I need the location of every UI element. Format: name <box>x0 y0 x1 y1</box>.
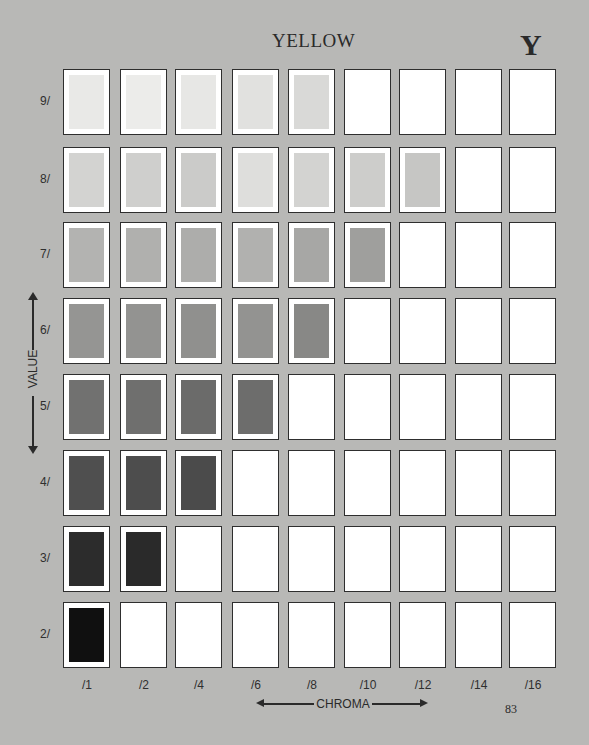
color-chip <box>232 450 279 516</box>
chip-color-fill <box>181 228 216 282</box>
hue-letter: Y <box>520 28 542 62</box>
color-chip <box>175 69 222 135</box>
color-chip <box>175 602 222 668</box>
chip-color-fill <box>69 532 104 586</box>
color-chip <box>344 602 391 668</box>
chip-color-fill <box>238 380 273 434</box>
chip-color-fill <box>69 608 104 662</box>
chip-color-fill <box>238 228 273 282</box>
color-chip <box>288 450 335 516</box>
color-chip <box>120 602 167 668</box>
chip-color-fill <box>181 456 216 510</box>
color-chip <box>288 222 335 288</box>
color-chip <box>455 222 502 288</box>
chip-color-fill <box>294 228 329 282</box>
chip-color-fill <box>294 304 329 358</box>
color-chip <box>399 374 446 440</box>
chip-color-fill <box>126 153 161 207</box>
color-chip <box>399 147 446 213</box>
chip-color-fill <box>69 380 104 434</box>
color-chip <box>344 374 391 440</box>
color-chip <box>344 298 391 364</box>
chip-color-fill <box>126 380 161 434</box>
color-chip <box>509 147 556 213</box>
color-chip <box>344 222 391 288</box>
chip-color-fill <box>126 304 161 358</box>
chip-color-fill <box>294 75 329 129</box>
color-chip <box>120 374 167 440</box>
color-chip <box>509 602 556 668</box>
chroma-axis: CHROMA <box>256 697 428 711</box>
column-label: /16 <box>509 678 557 692</box>
arrow-down-icon <box>28 446 38 454</box>
color-chip <box>288 374 335 440</box>
color-chip <box>63 602 110 668</box>
color-chip <box>288 526 335 592</box>
row-label: 9/ <box>40 94 62 108</box>
chip-color-fill <box>126 456 161 510</box>
color-chip <box>509 298 556 364</box>
color-chip <box>509 374 556 440</box>
color-chip <box>399 298 446 364</box>
color-chip <box>399 69 446 135</box>
color-chip <box>288 69 335 135</box>
chip-color-fill <box>238 153 273 207</box>
color-chip <box>63 374 110 440</box>
axis-line <box>372 703 422 705</box>
color-chip <box>455 298 502 364</box>
color-chip <box>288 147 335 213</box>
color-chip <box>63 298 110 364</box>
color-chip <box>120 526 167 592</box>
chip-color-fill <box>294 153 329 207</box>
chip-color-fill <box>181 153 216 207</box>
color-chip <box>120 69 167 135</box>
color-chip <box>232 69 279 135</box>
chip-color-fill <box>69 153 104 207</box>
color-chip <box>232 526 279 592</box>
row-label: 4/ <box>40 475 62 489</box>
axis-line <box>32 298 34 350</box>
color-chip <box>63 450 110 516</box>
color-chip <box>399 602 446 668</box>
chip-color-fill <box>181 304 216 358</box>
column-label: /10 <box>344 678 392 692</box>
row-label: 6/ <box>40 323 62 337</box>
color-chip <box>455 602 502 668</box>
row-label: 3/ <box>40 551 62 565</box>
color-chip <box>455 69 502 135</box>
color-chip <box>344 526 391 592</box>
axis-line <box>262 703 314 705</box>
chip-color-fill <box>181 380 216 434</box>
column-label: /6 <box>232 678 280 692</box>
arrow-right-icon <box>420 699 428 707</box>
value-axis: VALUE <box>24 292 42 454</box>
color-chip <box>232 602 279 668</box>
chroma-axis-label: CHROMA <box>316 697 370 711</box>
color-chip <box>288 298 335 364</box>
color-chip <box>399 222 446 288</box>
row-label: 2/ <box>40 627 62 641</box>
color-chip <box>399 450 446 516</box>
color-chip <box>120 298 167 364</box>
color-chip <box>63 526 110 592</box>
column-label: /2 <box>120 678 168 692</box>
row-label: 8/ <box>40 172 62 186</box>
color-chip <box>509 526 556 592</box>
value-axis-label: VALUE <box>26 346 40 392</box>
color-chip <box>175 374 222 440</box>
color-chip <box>509 222 556 288</box>
color-chip <box>63 222 110 288</box>
chip-color-fill <box>350 228 385 282</box>
chip-color-fill <box>405 153 440 207</box>
chip-color-fill <box>69 228 104 282</box>
color-chip <box>455 374 502 440</box>
color-chip <box>455 147 502 213</box>
chip-color-fill <box>126 532 161 586</box>
color-chip <box>63 147 110 213</box>
color-chip <box>232 374 279 440</box>
color-chip <box>509 450 556 516</box>
row-label: 7/ <box>40 247 62 261</box>
color-chip <box>63 69 110 135</box>
column-label: /14 <box>455 678 503 692</box>
chip-color-fill <box>126 75 161 129</box>
